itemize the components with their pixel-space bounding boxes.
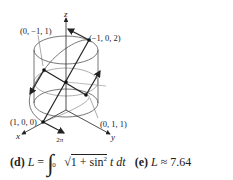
- point-label-0-neg1-1: (0, −1, 1): [20, 27, 52, 36]
- y-axis-label: y: [111, 133, 115, 142]
- integral-lower: 0: [52, 162, 56, 169]
- x-axis-label: x: [16, 132, 20, 141]
- point-label-neg1-0-2: (−1, 0, 2): [89, 34, 121, 43]
- formula-line: (d) L = ∫ 2π 0 √1 + sin2 t dt (e) L ≈ 7.…: [10, 146, 191, 170]
- sqrt-sign: √: [64, 155, 71, 169]
- point-label-1-0-0: (1, 0, 0): [10, 118, 37, 127]
- point-label-0-1-1: (0, 1, 1): [100, 120, 127, 129]
- z-axis-label: z: [64, 10, 68, 19]
- integral-upper: 2π: [56, 137, 63, 144]
- power: 2: [104, 155, 108, 163]
- part-e-approx: ≈: [161, 155, 168, 169]
- part-d-eq: =: [37, 155, 44, 169]
- part-e-lhs: L: [151, 155, 158, 169]
- integrand-rest: t dt: [110, 155, 126, 169]
- part-e-label: (e): [135, 155, 148, 169]
- part-d-lhs: L: [28, 155, 35, 169]
- part-e-value: 7.64: [170, 155, 191, 169]
- part-d-label: (d): [10, 155, 25, 169]
- integrand: 1 + sin: [71, 155, 104, 169]
